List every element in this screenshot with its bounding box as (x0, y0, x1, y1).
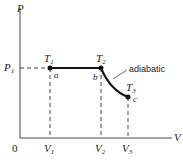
x-axis-label: V (174, 131, 182, 143)
pv-diagram: P V 0 P1 T1 T2 T3 a b c adiabatic V1 V2 … (0, 0, 183, 163)
point-a (48, 66, 53, 71)
adiabatic-leader (113, 70, 127, 79)
t3-label: T3 (126, 81, 136, 95)
point-c (126, 95, 131, 100)
origin-label: 0 (12, 142, 18, 154)
v1-label: V1 (44, 142, 54, 156)
point-c-label: c (133, 94, 137, 104)
v3-label: V3 (122, 142, 133, 156)
point-b (99, 66, 104, 71)
adiabatic-label: adiabatic (129, 64, 166, 74)
point-a-label: a (54, 70, 59, 80)
v2-label: V2 (95, 142, 106, 156)
t2-label: T2 (96, 52, 106, 66)
p1-label: P1 (3, 61, 14, 75)
t1-label: T1 (44, 52, 54, 66)
y-axis-label: P (16, 2, 24, 14)
point-b-label: b (93, 72, 98, 82)
